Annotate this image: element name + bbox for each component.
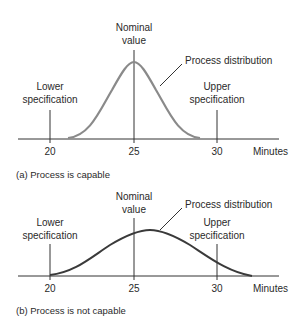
unit-label-b: Minutes [253, 283, 288, 294]
lower-spec-label-b-2: specification [22, 230, 77, 241]
upper-spec-label-b-2: specification [189, 230, 244, 241]
lower-spec-label-a-2: specification [22, 94, 77, 105]
tick-25-b: 25 [128, 283, 140, 294]
upper-spec-label-a-1: Upper [203, 81, 231, 92]
panel-b: Nominal value Process distribution Lower… [16, 191, 288, 316]
nominal-label-b-2: value [122, 204, 146, 215]
upper-spec-label-b-1: Upper [203, 217, 231, 228]
distribution-pointer-b [160, 208, 182, 230]
process-capability-diagram: Nominal value Process distribution Lower… [0, 0, 302, 328]
tick-30-b: 30 [211, 283, 223, 294]
tick-30-a: 30 [211, 146, 223, 157]
distribution-label-a: Process distribution [185, 55, 272, 66]
nominal-label-a-2: value [122, 35, 146, 46]
nominal-label-a-1: Nominal [116, 22, 153, 33]
tick-25-a: 25 [128, 146, 140, 157]
unit-label-a: Minutes [253, 146, 288, 157]
lower-spec-label-b-1: Lower [36, 217, 64, 228]
distribution-pointer-a [160, 64, 182, 86]
distribution-label-b: Process distribution [185, 199, 272, 210]
upper-spec-label-a-2: specification [189, 94, 244, 105]
tick-20-a: 20 [44, 146, 56, 157]
panel-a: Nominal value Process distribution Lower… [16, 22, 288, 180]
tick-20-b: 20 [44, 283, 56, 294]
caption-b: (b) Process is not capable [16, 305, 126, 316]
lower-spec-label-a-1: Lower [36, 81, 64, 92]
caption-a: (a) Process is capable [16, 169, 110, 180]
nominal-label-b-1: Nominal [116, 191, 153, 202]
